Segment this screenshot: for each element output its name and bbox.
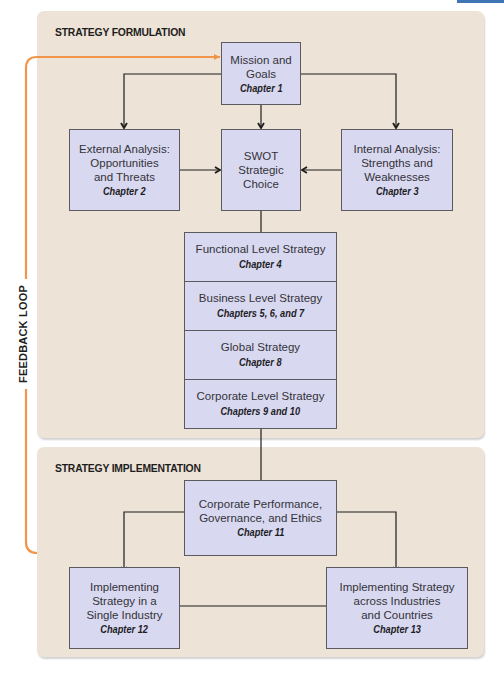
corner-accent-tab [457,0,504,3]
swot-box: SWOT Strategic Choice [221,129,301,211]
chapter-label: Chapter 1 [240,81,283,95]
corporate-performance-box: Corporate Performance, Governance, and E… [184,480,337,556]
across-industries-box: Implementing Strategy across Industries … [326,567,468,649]
chapter-label: Chapter 12 [101,622,149,636]
chapter-label: Chapter 11 [237,525,284,539]
business-level-cell: Business Level Strategy Chapters 5, 6, a… [185,282,336,331]
mission-goals-box: Mission and Goals Chapter 1 [221,42,301,105]
chapter-label: Chapter 2 [103,184,146,198]
internal-analysis-box: Internal Analysis: Strengths and Weaknes… [341,129,453,211]
chapter-label: Chapters 5, 6, and 7 [217,306,304,321]
chapter-label: Chapters 9 and 10 [221,404,301,419]
strategy-levels-stack: Functional Level Strategy Chapter 4 Busi… [184,232,337,429]
formulation-title: STRATEGY FORMULATION [55,26,185,38]
chapter-label: Chapter 4 [239,257,282,272]
implementation-title: STRATEGY IMPLEMENTATION [55,462,201,474]
single-industry-box: Implementing Strategy in a Single Indust… [69,567,180,649]
chapter-label: Chapter 3 [376,184,419,198]
corporate-level-cell: Corporate Level Strategy Chapters 9 and … [185,380,336,428]
global-strategy-cell: Global Strategy Chapter 8 [185,331,336,380]
chapter-label: Chapter 8 [239,355,282,370]
functional-level-cell: Functional Level Strategy Chapter 4 [185,233,336,282]
external-analysis-box: External Analysis: Opportunities and Thr… [69,129,180,211]
chapter-label: Chapter 13 [373,622,421,636]
